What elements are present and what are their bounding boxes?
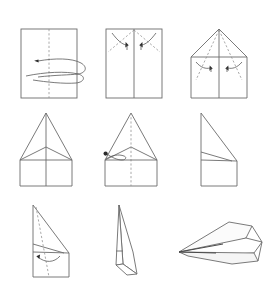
panel-fold-body-in-half bbox=[104, 113, 158, 186]
half-fold-arrow-dot bbox=[104, 152, 108, 156]
profile-outline bbox=[201, 113, 237, 186]
panel-both-wings-folded bbox=[116, 205, 137, 275]
panel-folded-half-profile bbox=[201, 113, 237, 186]
panel-completed-nose-folds bbox=[20, 113, 72, 186]
panel-fold-sheet-in-half bbox=[21, 29, 85, 98]
profile-outline bbox=[33, 205, 69, 277]
plane-right-wing bbox=[179, 252, 258, 264]
panel-fold-new-corners bbox=[191, 29, 247, 98]
body-outline bbox=[105, 113, 157, 186]
panel-finished-paper-airplane bbox=[179, 222, 262, 264]
panel-fold-top-corners bbox=[106, 29, 162, 98]
paper-airplane-instruction-diagram bbox=[0, 0, 271, 293]
panel-fold-wing-down bbox=[33, 205, 69, 277]
instruction-diagram-canvas bbox=[0, 0, 271, 293]
